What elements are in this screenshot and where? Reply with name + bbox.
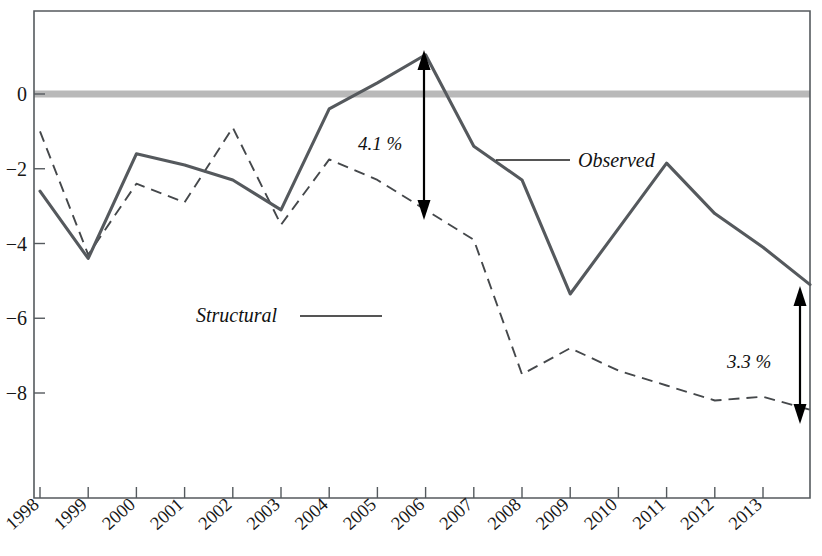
gap-2013-label: 3.3 %	[726, 351, 771, 372]
chart-background	[0, 0, 822, 556]
observed-label: Observed	[578, 149, 656, 171]
y-tick-label-1: −2	[6, 158, 27, 180]
y-tick-label-4: −8	[6, 382, 27, 404]
structural-label: Structural	[196, 304, 278, 326]
y-tick-label-0: 0	[17, 83, 27, 105]
y-tick-label-2: −4	[6, 233, 27, 255]
fiscal-balance-chart: 0−2−4−6−8 199819992000200120022003200420…	[0, 0, 822, 556]
chart-canvas: 0−2−4−6−8 199819992000200120022003200420…	[0, 0, 822, 556]
y-tick-label-3: −6	[6, 307, 27, 329]
gap-2006-label: 4.1 %	[358, 133, 402, 154]
